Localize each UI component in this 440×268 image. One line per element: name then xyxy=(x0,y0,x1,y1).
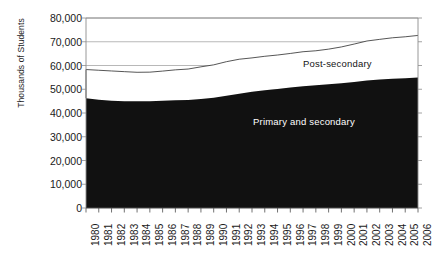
x-tick-label: 1981 xyxy=(103,224,114,246)
x-tick-label: 1996 xyxy=(295,224,306,246)
x-tick-label: 2004 xyxy=(397,224,408,246)
x-tick-label: 1997 xyxy=(307,224,318,246)
x-tick-label: 1988 xyxy=(192,224,203,246)
x-tick-label: 2003 xyxy=(384,224,395,246)
x-tick-label: 1990 xyxy=(218,224,229,246)
x-tick-label: 2002 xyxy=(371,224,382,246)
x-tick-label: 1983 xyxy=(129,224,140,246)
post-secondary-label: Post-secondary xyxy=(303,58,372,69)
x-axis-tick-labels: 1980198119821983198419851986198719881989… xyxy=(0,0,440,268)
x-tick-label: 1987 xyxy=(180,224,191,246)
x-tick-label: 2000 xyxy=(346,224,357,246)
x-tick-label: 1999 xyxy=(333,224,344,246)
x-tick-label: 1998 xyxy=(320,224,331,246)
x-tick-label: 1989 xyxy=(205,224,216,246)
x-tick-label: 1980 xyxy=(90,224,101,246)
x-tick-label: 2005 xyxy=(409,224,420,246)
x-tick-label: 2006 xyxy=(422,224,433,246)
x-tick-label: 1992 xyxy=(243,224,254,246)
x-tick-label: 1986 xyxy=(167,224,178,246)
primary-secondary-label: Primary and secondary xyxy=(253,116,355,127)
x-tick-label: 1995 xyxy=(282,224,293,246)
x-tick-label: 1991 xyxy=(231,224,242,246)
x-tick-label: 1993 xyxy=(256,224,267,246)
x-tick-label: 1985 xyxy=(154,224,165,246)
x-tick-label: 1982 xyxy=(116,224,127,246)
x-tick-label: 1994 xyxy=(269,224,280,246)
stacked-area-chart: Thousands of Students 80,00070,00060,000… xyxy=(0,0,440,268)
x-tick-label: 2001 xyxy=(358,224,369,246)
x-tick-label: 1984 xyxy=(141,224,152,246)
